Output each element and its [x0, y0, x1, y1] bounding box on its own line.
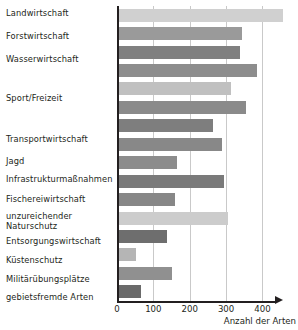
bar: [119, 46, 241, 59]
bar: [119, 230, 167, 243]
bar: [119, 9, 284, 22]
x-tick-label: 200: [182, 304, 198, 314]
bar: [119, 248, 136, 261]
x-tick-label: 0: [114, 304, 119, 314]
bar: [119, 175, 224, 188]
bar: [119, 285, 142, 298]
bar: [119, 156, 177, 169]
category-label: Wasserwirtschaft: [6, 55, 116, 65]
bar: [119, 27, 243, 40]
gridline-400: [262, 6, 263, 301]
bar: [119, 101, 246, 114]
category-label: Küstenschutz: [6, 256, 116, 266]
category-label: Entsorgungswirtschaft: [6, 237, 116, 247]
category-label: Sport/Freizeit: [6, 94, 116, 104]
bar: [119, 212, 228, 225]
x-tick-label: 400: [254, 304, 270, 314]
category-label: Militärübungsplätze: [6, 275, 116, 285]
x-axis-line: [117, 301, 277, 303]
x-axis-title: Anzahl der Arten: [224, 316, 296, 326]
bar: [119, 119, 214, 132]
x-tick-label: 300: [218, 304, 234, 314]
x-tick-label: 100: [145, 304, 161, 314]
category-label: Transportwirtschaft: [6, 135, 116, 145]
category-label: Forstwirtschaft: [6, 32, 116, 42]
category-label: gebietsfremde Arten: [6, 293, 116, 303]
category-label: Landwirtschaft: [6, 9, 116, 19]
category-label: Naturschutz: [6, 222, 116, 232]
category-label: Infrastrukturmaßnahmen: [6, 175, 116, 185]
bar-chart: LandwirtschaftForstwirtschaftWasserwirts…: [0, 0, 298, 330]
bar: [119, 267, 172, 280]
bar: [119, 64, 257, 77]
category-labels: LandwirtschaftForstwirtschaftWasserwirts…: [0, 0, 118, 330]
plot-area: [117, 6, 277, 301]
bar: [119, 138, 223, 151]
bar: [119, 193, 175, 206]
bar: [119, 82, 232, 95]
category-label: Fischereiwirtschaft: [6, 195, 116, 205]
x-axis-arrow-icon: [275, 296, 283, 304]
category-label: Jagd: [6, 157, 116, 167]
